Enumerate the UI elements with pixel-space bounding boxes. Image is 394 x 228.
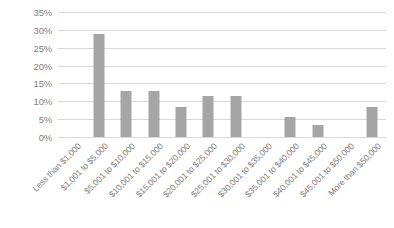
bar-slot [249,12,276,137]
bar [285,117,296,137]
bar [230,96,241,137]
bar [148,91,159,137]
bar [93,34,104,137]
y-axis-tick-label: 30% [0,24,52,35]
bar-series [58,12,386,137]
bar [203,96,214,137]
y-axis: 35%30%25%20%15%10%5%0% [0,12,52,137]
bar [367,107,378,137]
y-axis-tick-label: 10% [0,96,52,107]
bar-slot [277,12,304,137]
bar-slot [304,12,331,137]
y-axis-tick-label: 0% [0,132,52,143]
x-axis-tick-label: More than $50,000 [327,141,384,198]
y-axis-tick-label: 15% [0,78,52,89]
bar-slot [58,12,85,137]
bar-slot [140,12,167,137]
bar-slot [195,12,222,137]
bar [121,91,132,137]
axis-baseline [58,137,386,138]
y-axis-tick-label: 5% [0,114,52,125]
bar-slot [167,12,194,137]
bar-slot [222,12,249,137]
y-axis-tick-label: 35% [0,7,52,18]
x-axis: Less than $1,000$1,001 to $5,000$5,001 t… [58,139,386,227]
bar-slot [85,12,112,137]
bar-slot [331,12,358,137]
bar-slot [359,12,386,137]
y-axis-tick-label: 20% [0,60,52,71]
bar [175,107,186,137]
y-axis-tick-label: 25% [0,42,52,53]
bar [312,125,323,138]
bar-slot [113,12,140,137]
bar-chart: 35%30%25%20%15%10%5%0% Less than $1,000$… [0,0,394,228]
